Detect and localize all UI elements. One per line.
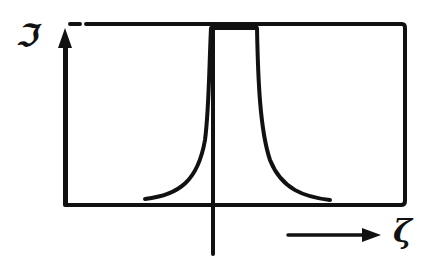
frame-box (66, 24, 405, 205)
peak-cap (212, 24, 258, 30)
arrowhead-right-icon (362, 228, 381, 242)
peak-curve (145, 28, 330, 200)
arrowhead-up-icon (58, 28, 72, 48)
diagram-canvas (0, 0, 435, 259)
y-axis-arrow (58, 28, 72, 205)
y-axis-label: ℑ (16, 18, 37, 53)
x-axis-label: ζ (393, 212, 412, 250)
x-direction-arrow (288, 228, 381, 242)
